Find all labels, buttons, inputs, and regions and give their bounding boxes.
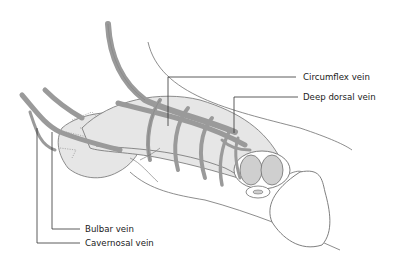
label-deep-dorsal-vein: Deep dorsal vein bbox=[303, 93, 376, 102]
urethra-cross-section bbox=[246, 186, 270, 198]
label-cavernosal-vein: Cavernosal vein bbox=[85, 239, 154, 248]
corpora-cross-section bbox=[234, 151, 290, 189]
label-bulbar-vein: Bulbar vein bbox=[85, 225, 134, 234]
label-circumflex-vein: Circumflex vein bbox=[303, 73, 370, 82]
penile-venous-anatomy-diagram bbox=[0, 0, 398, 262]
